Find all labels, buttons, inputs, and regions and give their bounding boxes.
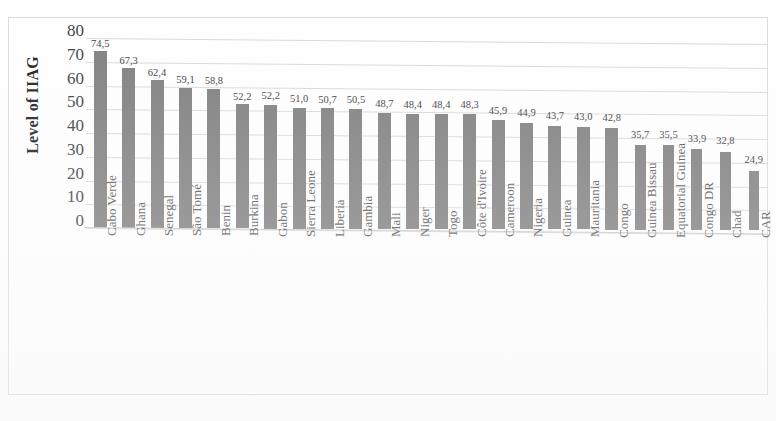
bar-value-label: 59,1 xyxy=(171,74,199,85)
bar-value-label: 58,8 xyxy=(200,75,228,86)
x-axis-category-labels: Cabo VerdeGhanaSenegalSão ToméBeninBurki… xyxy=(86,232,768,392)
bar-value-label: 48,4 xyxy=(427,99,455,110)
bar-value-label: 48,4 xyxy=(399,99,427,110)
bar-chart-figure: Level of IIAG 80706050403020100 74,567,3… xyxy=(0,0,776,421)
bar-value-label: 24,9 xyxy=(740,154,768,165)
x-axis-label: Togo xyxy=(446,210,459,237)
x-axis-label: Congo DR xyxy=(702,182,715,238)
y-tick-label: 10 xyxy=(44,188,84,205)
x-axis-label: Mauritania xyxy=(588,180,601,237)
bar-value-label: 51,0 xyxy=(285,93,313,104)
bar-value-label: 35,7 xyxy=(626,129,654,140)
x-axis-label: Cameroon xyxy=(503,183,516,237)
y-tick-label: 80 xyxy=(44,22,84,39)
x-axis-label: Sierra Leone xyxy=(304,170,317,237)
x-axis-label: Cabo Verde xyxy=(105,175,118,236)
gridline xyxy=(86,38,768,45)
bar-value-label: 62,4 xyxy=(143,67,171,78)
x-axis-label: Gambia xyxy=(361,196,374,237)
gridline xyxy=(86,62,768,69)
bar-value-label: 52,2 xyxy=(257,90,285,101)
bar-value-label: 32,8 xyxy=(711,135,739,146)
bar-value-label: 50,7 xyxy=(314,94,342,105)
x-axis-label: São Tomé xyxy=(190,184,203,236)
bar-value-label: 45,9 xyxy=(484,105,512,116)
y-tick-label: 60 xyxy=(44,70,84,87)
bar-value-label: 50,5 xyxy=(342,94,370,105)
x-axis-label: Ghana xyxy=(134,202,147,236)
bar-value-label: 35,5 xyxy=(655,129,683,140)
x-axis-label: CAR xyxy=(759,211,772,238)
y-tick-label: 50 xyxy=(44,93,84,110)
x-axis-label: Burkina xyxy=(247,195,260,237)
y-tick-label: 70 xyxy=(44,46,84,63)
x-axis-label: Guinea xyxy=(560,200,573,238)
x-axis-label: Gabon xyxy=(276,202,289,237)
x-axis-label: Côte d'Ivoire xyxy=(475,169,488,237)
x-axis-label: Nigeria xyxy=(531,198,544,237)
x-axis-label: Guinea Bissau xyxy=(645,162,658,237)
x-axis-label: Niger xyxy=(418,207,431,237)
y-tick-label: 30 xyxy=(44,141,84,158)
x-axis-label: Equatorial Guinea xyxy=(674,143,687,238)
bar-value-label: 44,9 xyxy=(512,107,540,118)
bar-value-label: 48,3 xyxy=(456,99,484,110)
x-axis-label: Congo xyxy=(617,203,630,238)
x-axis-label: Liberia xyxy=(333,199,346,237)
y-tick-label: 0 xyxy=(44,212,84,229)
bar-value-label: 43,7 xyxy=(541,110,569,121)
y-axis-tick-labels: 80706050403020100 xyxy=(44,30,84,230)
bar-value-label: 74,5 xyxy=(86,38,114,49)
bar-value-label: 48,7 xyxy=(370,98,398,109)
y-axis-title: Level of IIAG xyxy=(24,25,42,185)
x-axis-label: Senegal xyxy=(162,195,175,236)
y-tick-label: 40 xyxy=(44,117,84,134)
bar-value-label: 67,3 xyxy=(115,55,143,66)
x-axis-label: Benin xyxy=(219,205,232,236)
x-axis-label: Mali xyxy=(389,212,402,237)
bar-value-label: 43,0 xyxy=(569,111,597,122)
y-tick-label: 20 xyxy=(44,165,84,182)
bar-value-label: 42,8 xyxy=(598,112,626,123)
bar-value-label: 52,2 xyxy=(228,91,256,102)
x-axis-label: Chad xyxy=(730,210,743,237)
